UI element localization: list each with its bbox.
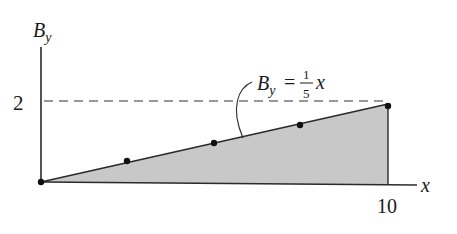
y-axis-label: By — [33, 19, 52, 45]
data-point — [124, 158, 130, 164]
data-point — [211, 140, 217, 146]
svg-text:1: 1 — [303, 67, 310, 82]
x-tick-label: 10 — [377, 195, 397, 217]
svg-text:By: By — [257, 72, 276, 98]
data-point — [297, 122, 303, 128]
data-point — [385, 103, 391, 109]
y-tick-label: 2 — [13, 91, 24, 115]
svg-text:5: 5 — [303, 86, 310, 101]
x-axis-label: x — [420, 174, 430, 196]
svg-text:=: = — [284, 71, 295, 93]
diagram-canvas: By 2 x 10 By = 1 5 x — [0, 0, 457, 234]
svg-text:x: x — [315, 71, 325, 93]
equation-label: By = 1 5 x — [257, 67, 325, 101]
equation-leader-curve — [236, 82, 252, 138]
data-point — [38, 179, 44, 185]
